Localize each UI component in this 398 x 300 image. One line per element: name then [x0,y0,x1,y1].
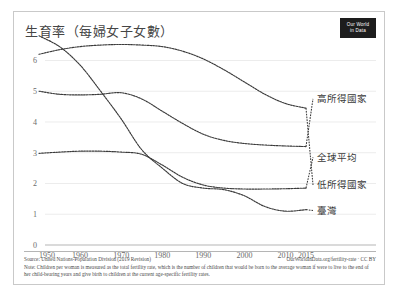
series-lines-group [39,36,313,211]
series-label-2[interactable]: 高所得國家 [317,93,367,104]
axis-divider [24,251,376,252]
y-axis-tick-label: 3 [33,149,37,158]
series-line-4[interactable] [39,36,306,211]
series-label-1[interactable]: 低所得國家 [317,179,367,190]
y-axis-tick-labels: 0123456 [33,56,37,250]
y-axis-tick-label: 0 [33,241,37,250]
series-labels-group: 低所得國家高所得國家全球平均臺灣 [317,93,367,216]
source-text: Source: United Nations-Population Divisi… [24,256,151,264]
series-line-1[interactable] [39,44,306,108]
series-label-4[interactable]: 臺灣 [317,205,337,216]
chart-footer: Source: United Nations-Population Divisi… [24,256,376,279]
series-line-2[interactable] [39,91,306,146]
y-axis-tick-label: 6 [33,56,37,65]
y-axis-tick-label: 4 [33,118,37,127]
fertility-rate-chart-card: 生育率（每婦女子女數） Our World in Data 0123456 19… [13,11,385,285]
series-label-3[interactable]: 全球平均 [317,152,357,163]
plot-area: 0123456 19501960197019801990200020102015… [14,12,384,284]
y-axis-tick-label: 1 [33,210,37,219]
attribution-text[interactable]: OurWorldInData.org/fertility-rate · CC B… [287,256,376,264]
series-label-connector-4 [306,210,313,211]
y-axis-tick-label: 5 [33,87,37,96]
fertility-line-chart-svg: 0123456 19501960197019801990200020102015… [14,12,384,284]
y-axis-tick-label: 2 [33,179,37,188]
note-text: Note: Children per woman is measured as … [24,264,376,279]
